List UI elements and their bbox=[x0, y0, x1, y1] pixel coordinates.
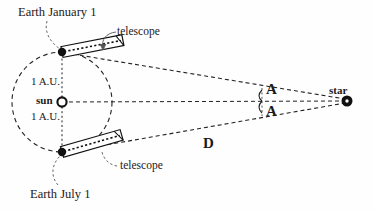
telescope-january-tube bbox=[61, 35, 124, 58]
label-earth-july: Earth July 1 bbox=[30, 188, 90, 201]
leader-telescope-bottom bbox=[102, 152, 117, 166]
label-earth-january: Earth January 1 bbox=[18, 6, 96, 19]
label-parallax-angle-bottom: A bbox=[266, 104, 277, 119]
telescope-january bbox=[61, 35, 124, 58]
label-au-bottom: 1 A.U. bbox=[31, 111, 60, 122]
diagram-canvas bbox=[0, 0, 373, 211]
label-au-top: 1 A.U. bbox=[31, 76, 60, 87]
sun-marker bbox=[57, 97, 66, 106]
earth-july-marker bbox=[58, 148, 66, 156]
label-sun: sun bbox=[36, 95, 53, 106]
label-star: star bbox=[329, 85, 347, 96]
parallax-angle-top-arc bbox=[259, 90, 262, 101]
telescope-july bbox=[60, 130, 123, 158]
sun-star-axis-line bbox=[62, 101, 345, 102]
sight-line-january bbox=[66, 53, 345, 99]
star-marker-core bbox=[345, 99, 348, 102]
label-distance-d: D bbox=[203, 136, 214, 151]
label-parallax-angle-top: A bbox=[266, 82, 277, 97]
earth-january-marker bbox=[58, 48, 66, 56]
label-telescope-top: telescope bbox=[117, 26, 160, 38]
leader-earth-january bbox=[46, 21, 60, 49]
parallax-diagram: Earth January 1 Earth July 1 telescope t… bbox=[0, 0, 373, 211]
telescope-july-tube bbox=[60, 130, 123, 158]
leader-earth-july bbox=[53, 156, 60, 185]
label-telescope-bottom: telescope bbox=[120, 160, 163, 172]
